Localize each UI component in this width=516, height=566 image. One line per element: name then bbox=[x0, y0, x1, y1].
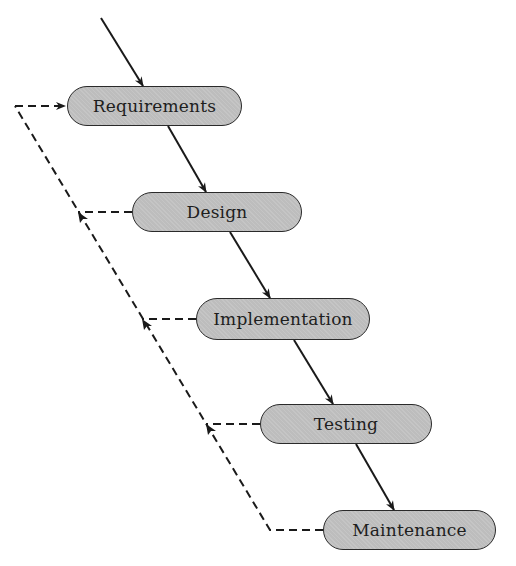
stage-label: Requirements bbox=[93, 96, 216, 116]
feedback-arrowheads bbox=[78, 212, 216, 435]
stage-testing: Testing bbox=[260, 404, 432, 444]
connector-layer bbox=[0, 0, 516, 566]
stage-label: Testing bbox=[314, 414, 378, 434]
stage-maintenance: Maintenance bbox=[323, 510, 496, 550]
arrow-implementation-to-testing bbox=[294, 340, 333, 404]
stage-label: Implementation bbox=[213, 309, 353, 329]
arrowhead-icon bbox=[78, 212, 88, 223]
arrowhead-icon bbox=[206, 424, 216, 435]
stage-requirements: Requirements bbox=[67, 86, 242, 126]
entry-arrow bbox=[101, 18, 143, 86]
stage-label: Maintenance bbox=[352, 520, 467, 540]
stage-label: Design bbox=[187, 202, 248, 222]
stage-implementation: Implementation bbox=[196, 298, 370, 340]
arrow-requirements-to-design bbox=[168, 126, 206, 192]
arrow-testing-to-maintenance bbox=[356, 444, 394, 510]
stage-design: Design bbox=[132, 192, 302, 232]
arrowhead-icon bbox=[142, 319, 152, 330]
arrow-design-to-implementation bbox=[230, 232, 270, 298]
